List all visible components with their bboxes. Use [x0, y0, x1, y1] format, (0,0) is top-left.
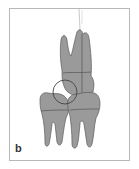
axis-line	[79, 8, 80, 30]
lower-left-molar	[40, 93, 69, 146]
lower-right-molar	[68, 92, 100, 148]
upper-tooth	[60, 30, 94, 95]
panel-label: b	[15, 142, 22, 154]
